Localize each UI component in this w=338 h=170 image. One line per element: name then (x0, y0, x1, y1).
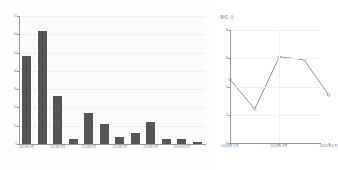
bar-chart-bar (84, 113, 93, 144)
line-chart-plot-area (230, 30, 320, 143)
line-chart-y-tick-mark (228, 30, 230, 31)
line-chart-x-tick-label: 2018年3月 (270, 145, 288, 149)
bar-chart-bar (100, 124, 109, 144)
line-chart-x-tick-label: 2018年1月 (221, 145, 239, 149)
line-chart-gridline-vertical (279, 30, 280, 143)
bar-chart-y-tick-mark (17, 53, 19, 54)
bar-chart-bar (115, 137, 124, 144)
bar-chart-bar (53, 96, 62, 144)
line-chart-gridline (230, 115, 320, 116)
line-chart-panel: 单位: 元 02468 2018年1月2018年3月2018年5月 (215, 0, 320, 170)
bar-chart-y-tick-label: 50 (14, 51, 17, 54)
line-chart-x-tick-label: 2018年5月 (320, 145, 338, 149)
bar-chart-bar (22, 56, 31, 144)
bar-chart-y-tick-label: 20 (14, 106, 17, 109)
line-chart-y-tick-label: 4 (226, 85, 228, 89)
bar-chart-y-axis: 010203040506070 (19, 16, 20, 145)
bar-chart-x-tick-label: 2018年7月 (112, 146, 127, 149)
line-chart-y-tick-label: 6 (226, 56, 228, 60)
bar-chart-bar (38, 31, 47, 144)
line-chart-y-tick-label: 8 (226, 28, 228, 32)
bar-chart-x-tick-label: 2018年9月 (143, 146, 158, 149)
line-chart-x-tick-labels: 2018年1月2018年3月2018年5月 (230, 145, 320, 155)
bar-chart-y-tick-label: 70 (14, 15, 17, 18)
bar-chart-bar (131, 133, 140, 144)
line-chart-y-axis: 02468 (230, 30, 231, 144)
line-chart-y-tick-mark (228, 87, 230, 88)
bar-chart-plot-area (19, 16, 205, 144)
line-chart-y-tick-label: 2 (226, 113, 228, 117)
line-chart-gridline (230, 87, 320, 88)
bar-chart-x-tick-label: 2018年5月 (81, 146, 96, 149)
bar-chart-bars (19, 16, 205, 144)
line-chart-unit-label: 单位: 元 (220, 16, 234, 20)
bar-chart-x-tick-label: 2018年11月 (174, 146, 190, 149)
bar-chart-y-tick-mark (17, 107, 19, 108)
bar-chart-y-tick-label: 60 (14, 33, 17, 36)
line-chart-y-tick-mark (228, 58, 230, 59)
bar-chart-y-tick-label: 10 (14, 124, 17, 127)
bar-chart-y-tick-mark (17, 34, 19, 35)
bar-chart-panel: 010203040506070 2018年1月2018年3月2018年5月201… (0, 0, 215, 170)
bar-chart-y-tick-label: 30 (14, 88, 17, 91)
bar-chart-bar (146, 122, 155, 144)
bar-chart-x-tick-labels: 2018年1月2018年3月2018年5月2018年7月2018年9月2018年… (19, 146, 205, 154)
bar-chart-y-tick-mark (17, 16, 19, 17)
line-chart-gridline (230, 58, 320, 59)
bar-chart-y-tick-mark (17, 89, 19, 90)
bar-chart-y-tick-label: 0 (15, 143, 17, 146)
bar-chart-y-tick-mark (17, 71, 19, 72)
line-chart-y-tick-mark (228, 115, 230, 116)
bar-chart-x-tick-label: 2018年1月 (19, 146, 34, 149)
line-chart-gridline (230, 30, 320, 31)
bar-chart-y-tick-label: 40 (14, 69, 17, 72)
bar-chart-y-tick-mark (17, 126, 19, 127)
bar-chart-x-tick-label: 2018年3月 (50, 146, 65, 149)
